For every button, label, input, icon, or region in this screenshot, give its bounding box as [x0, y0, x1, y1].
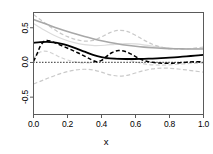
y-axis-ticks [30, 28, 34, 97]
x-tick-label: 1.0 [195, 119, 213, 129]
series-line-lower-confidence-band [34, 68, 204, 84]
plot-canvas [0, 0, 212, 154]
y-tick-label: 0.0 [20, 51, 30, 73]
x-tick-label: 0.0 [25, 119, 43, 129]
y-tick-label: -0.5 [20, 86, 30, 108]
x-tick-label: 0.6 [127, 119, 145, 129]
x-tick-label: 0.8 [161, 119, 179, 129]
series-group [34, 15, 204, 84]
x-tick-label: 0.4 [93, 119, 111, 129]
chart-container: 0.00.20.40.60.81.00.50.0-0.5x [0, 0, 212, 154]
x-tick-label: 0.2 [59, 119, 77, 129]
x-axis-ticks [34, 115, 204, 119]
x-axis-title: x [0, 136, 212, 147]
y-tick-label: 0.5 [20, 17, 30, 39]
